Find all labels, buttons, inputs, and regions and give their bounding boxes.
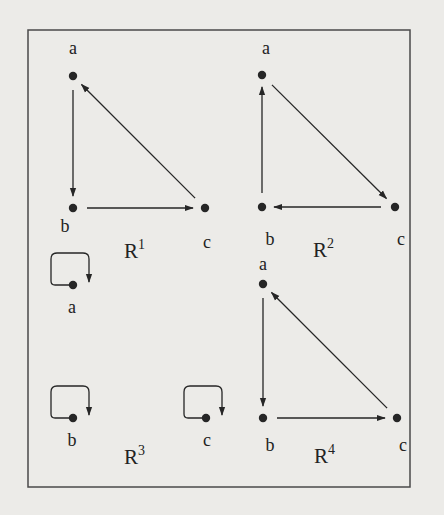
node-b-dot xyxy=(69,414,77,422)
graphs-layer: abcR1abcR2abcR3abcR4 xyxy=(51,38,407,469)
node-a-dot xyxy=(69,281,77,289)
node-label-c: c xyxy=(399,435,407,455)
node-a-dot xyxy=(259,280,267,288)
relation-label-r4: R4 xyxy=(314,442,335,468)
node-label-a: a xyxy=(259,254,267,274)
relation-label-r2: R2 xyxy=(313,236,334,262)
node-label-b: b xyxy=(61,216,70,236)
node-label-c: c xyxy=(397,229,405,249)
relation-label-r3: R3 xyxy=(124,443,145,469)
edge-c-to-a xyxy=(271,292,387,408)
node-c-dot xyxy=(391,203,399,211)
self-loop-edge-c xyxy=(184,386,222,418)
node-label-b: b xyxy=(266,435,275,455)
relation-digraphs-figure: abcR1abcR2abcR3abcR4 xyxy=(0,0,444,515)
node-b-dot xyxy=(258,203,266,211)
node-a-dot xyxy=(69,72,77,80)
node-label-c: c xyxy=(203,430,211,450)
graph-r4: abcR4 xyxy=(259,254,407,468)
node-label-a: a xyxy=(69,38,77,58)
node-label-a: a xyxy=(262,38,270,58)
self-loop-edge-a xyxy=(51,253,89,285)
node-c-dot xyxy=(201,204,209,212)
relation-label-r1: R1 xyxy=(124,237,145,263)
node-label-b: b xyxy=(266,229,275,249)
node-label-a: a xyxy=(68,297,76,317)
digraph-canvas: abcR1abcR2abcR3abcR4 xyxy=(0,0,444,515)
node-c-dot xyxy=(202,414,210,422)
node-label-b: b xyxy=(68,430,77,450)
node-c-dot xyxy=(393,414,401,422)
edge-a-to-c xyxy=(272,85,387,199)
edge-c-to-a xyxy=(81,84,195,198)
graph-r1: abcR1 xyxy=(61,38,212,263)
node-b-dot xyxy=(259,414,267,422)
graph-r3: abcR3 xyxy=(51,253,222,469)
node-a-dot xyxy=(258,71,266,79)
graph-r2: abcR2 xyxy=(258,38,405,262)
self-loop-edge-b xyxy=(51,386,89,418)
node-label-c: c xyxy=(203,232,211,252)
node-b-dot xyxy=(69,204,77,212)
